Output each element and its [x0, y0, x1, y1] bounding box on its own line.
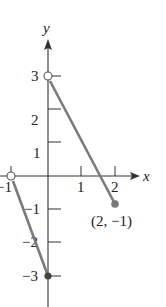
y-tick-label: −3	[22, 268, 38, 284]
axes: x y	[0, 20, 150, 307]
x-axis-label: x	[142, 168, 150, 184]
closed-endpoint-icon	[111, 200, 119, 208]
x-tick-label: 1	[77, 179, 85, 195]
x-tick-label: −1	[0, 179, 12, 195]
y-tick-label: 1	[33, 145, 41, 161]
y-tick-label: 3	[31, 68, 39, 84]
closed-endpoint-icon	[44, 272, 51, 279]
x-tick-label: 2	[111, 179, 119, 195]
open-endpoint-icon	[44, 72, 52, 80]
y-tick-label: 2	[31, 112, 39, 128]
segment-left	[13, 181, 48, 276]
point-annotation: (2, −1)	[91, 213, 132, 230]
open-endpoint-icon	[7, 172, 15, 180]
function-graph: x y −1 1 2 3 2 1 −1 −2 −3 (2, −1)	[0, 0, 166, 307]
y-axis-label: y	[41, 20, 50, 36]
